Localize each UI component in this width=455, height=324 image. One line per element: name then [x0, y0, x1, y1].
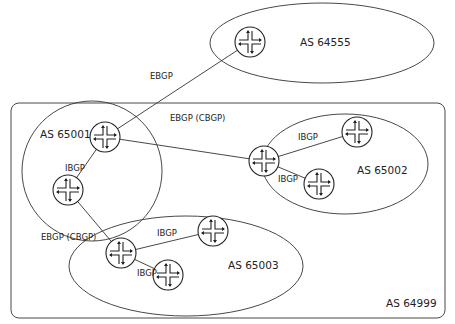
router-icon	[198, 216, 228, 246]
router-icon	[249, 146, 279, 176]
link-label: IBGP	[137, 268, 157, 278]
link-label: IBGP	[65, 163, 85, 173]
router-icon	[304, 169, 334, 199]
link-label: EBGP (CBGP)	[170, 113, 225, 123]
router-icon	[106, 238, 136, 268]
label-layer: AS 64999AS 64555AS 65001AS 65002AS 65003…	[40, 36, 437, 309]
link-r65001a-r65002a	[105, 137, 264, 161]
as65002-label: AS 65002	[357, 164, 408, 176]
link-label: EBGP (CBGP)	[41, 232, 96, 242]
link-label: IBGP	[298, 132, 318, 142]
as64555-label: AS 64555	[300, 36, 351, 48]
outer-as-label: AS 64999	[386, 297, 437, 309]
as65001-label: AS 65001	[40, 128, 91, 140]
link-label: IBGP	[278, 174, 298, 184]
link-label: IBGP	[157, 228, 177, 238]
router-icon	[235, 27, 265, 57]
router-icon	[53, 175, 83, 205]
router-icon	[153, 260, 183, 290]
link-label: EBGP	[150, 71, 173, 81]
router-icon	[342, 117, 372, 147]
as65003-label: AS 65003	[228, 259, 279, 271]
bgp-topology-diagram: AS 64999AS 64555AS 65001AS 65002AS 65003…	[0, 0, 455, 324]
router-icon	[90, 122, 120, 152]
